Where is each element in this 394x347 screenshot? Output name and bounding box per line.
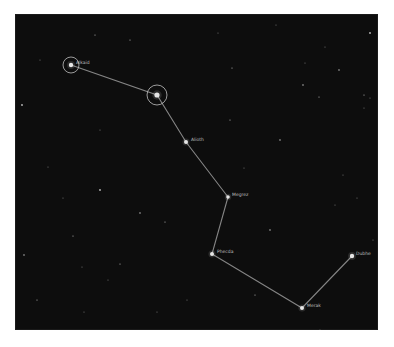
background-star <box>369 97 370 98</box>
background-star <box>334 204 335 205</box>
background-star <box>36 299 37 300</box>
star-label-phecda: Phecda <box>217 249 234 254</box>
background-star <box>304 62 305 63</box>
background-star <box>229 119 230 120</box>
background-star <box>243 167 244 168</box>
star-map[interactable]: AlkaidAliothMegrezPhecdaMerakDubhe <box>15 14 378 330</box>
background-star <box>81 266 82 267</box>
background-star <box>342 174 343 175</box>
star-alioth[interactable] <box>184 140 188 144</box>
background-star <box>338 69 340 71</box>
star-alkaid[interactable] <box>69 63 73 67</box>
background-star <box>319 329 320 330</box>
background-star <box>363 94 364 95</box>
star-merak[interactable] <box>300 306 304 310</box>
background-star <box>47 166 48 167</box>
background-star <box>356 197 357 198</box>
background-star <box>318 96 319 97</box>
background-star <box>279 139 281 141</box>
background-star <box>94 34 95 35</box>
background-star <box>254 294 255 295</box>
star-labels: AlkaidAliothMegrezPhecdaMerakDubhe <box>76 60 371 308</box>
background-star <box>269 229 271 231</box>
star-mizar[interactable] <box>154 92 159 97</box>
background-star <box>275 24 276 25</box>
constellation-lines <box>71 65 352 308</box>
background-star <box>39 59 40 60</box>
background-star <box>217 32 218 33</box>
background-star <box>72 235 73 236</box>
star-label-megrez: Megrez <box>232 192 249 197</box>
background-star <box>62 197 63 198</box>
background-star <box>119 263 120 264</box>
background-star <box>369 32 371 34</box>
background-star <box>23 254 25 256</box>
star-label-alioth: Alioth <box>191 137 204 142</box>
background-star <box>129 39 130 40</box>
star-megrez[interactable] <box>226 195 230 199</box>
background-star <box>164 221 165 222</box>
star-dubhe[interactable] <box>350 254 354 258</box>
sky-canvas: AlkaidAliothMegrezPhecdaMerakDubhe <box>15 14 378 330</box>
star-label-merak: Merak <box>307 303 321 308</box>
background-star <box>372 239 373 240</box>
background-star <box>156 311 157 312</box>
star-label-alkaid: Alkaid <box>76 60 90 65</box>
background-star <box>231 67 232 68</box>
background-star <box>21 104 23 106</box>
background-star <box>83 311 84 312</box>
background-star <box>186 299 187 300</box>
star-phecda[interactable] <box>210 252 214 256</box>
constellation-stars <box>67 61 356 312</box>
background-star <box>324 46 325 47</box>
background-stars <box>21 24 374 330</box>
background-star <box>302 84 304 86</box>
asterism-line <box>71 65 352 308</box>
background-star <box>363 107 364 108</box>
background-star <box>107 279 108 280</box>
background-star <box>139 212 141 214</box>
background-star <box>99 129 100 130</box>
background-star <box>99 189 101 191</box>
star-label-dubhe: Dubhe <box>356 251 371 256</box>
